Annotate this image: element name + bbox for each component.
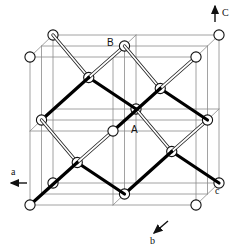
crystal-structure-svg: C a b c B A — [0, 0, 243, 247]
figure-canvas: C a b c B A — [0, 0, 243, 247]
atom-label-b: B — [107, 37, 114, 48]
bond-hollow-fill — [160, 57, 196, 89]
axis-c-lower-label: c — [215, 185, 220, 196]
atom-circle — [25, 52, 35, 62]
atom-circle — [25, 200, 35, 210]
bond-hollow-fill — [172, 120, 208, 152]
atom-circle — [191, 52, 201, 62]
axis-b-label: b — [150, 235, 155, 246]
bond-solid — [42, 78, 89, 121]
bond-solid — [172, 152, 219, 184]
axis-b-arrow — [154, 221, 168, 233]
bond-hollow-fill — [42, 120, 78, 163]
bond-solid — [30, 163, 77, 206]
atom-label-a: A — [131, 124, 138, 135]
bond-hollow-fill — [136, 109, 172, 152]
axis-c-upper-label: C — [222, 7, 229, 18]
bond-solid — [160, 89, 207, 121]
atom-circle — [214, 30, 224, 40]
bond-solid — [77, 163, 124, 195]
axis-a-label: a — [11, 166, 16, 177]
bond-hollow-fill — [53, 35, 89, 78]
bond-solid — [125, 152, 172, 195]
atom-circle — [108, 126, 118, 136]
bond-solid — [89, 78, 136, 110]
bond-hollow-fill — [89, 46, 125, 78]
bond-hollow-fill — [125, 46, 161, 89]
atom-circle — [191, 200, 201, 210]
bond-hollow-fill — [77, 131, 113, 163]
